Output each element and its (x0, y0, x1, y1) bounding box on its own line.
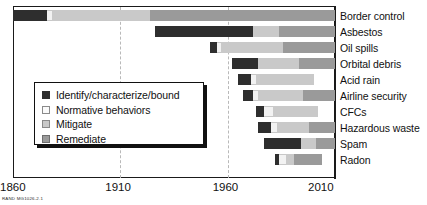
bar-segment-identify (258, 122, 271, 133)
legend-item: Identify/characterize/bound (42, 88, 203, 102)
bar-segment-identify (232, 58, 258, 69)
bar-segment-mitigate (277, 122, 309, 133)
category-label: Border control (340, 11, 405, 22)
legend-label: Remediate (56, 133, 106, 145)
bar-segment-identify (13, 10, 47, 21)
x-tick-label: 1910 (105, 181, 131, 193)
category-label: Oil spills (340, 43, 378, 54)
bar-segment-identify (243, 90, 254, 101)
bar-segment-remediate (303, 90, 335, 101)
x-tick-label: 1960 (213, 181, 239, 193)
legend-swatch-icon (42, 91, 50, 99)
bar-segment-normative (264, 106, 273, 117)
legend-label: Normative behaviors (56, 104, 150, 116)
bar-segment-mitigate (258, 90, 303, 101)
bar-segment-remediate (299, 58, 335, 69)
category-label: Radon (340, 155, 370, 166)
bar-segment-mitigate (253, 26, 279, 37)
bar-segment-remediate (283, 42, 335, 53)
legend-swatch-icon (42, 120, 50, 128)
legend-item: Remediate (42, 132, 203, 146)
bar-segment-mitigate (258, 58, 299, 69)
bar-segment-identify (256, 106, 265, 117)
legend-swatch-icon (42, 106, 50, 114)
bar-segment-mitigate (301, 138, 316, 149)
legend-item: Mitigate (42, 117, 203, 131)
bar-segment-remediate (279, 26, 335, 37)
bar-segment-mitigate (52, 10, 151, 21)
bar-segment-remediate (316, 138, 335, 149)
bar-segment-remediate (309, 122, 335, 133)
category-label: Spam (340, 139, 367, 150)
legend-label: Identify/characterize/bound (56, 89, 179, 101)
bar-segment-identify (264, 138, 300, 149)
category-label: Hazardous waste (340, 123, 420, 134)
category-label: Airline security (340, 91, 407, 102)
x-tick-label: 1860 (0, 181, 26, 193)
chart-figure: Border controlAsbestosOil spillsOrbital … (0, 0, 427, 205)
category-label: Acid rain (340, 75, 380, 86)
bar-segment-remediate (294, 154, 322, 165)
x-tick-label: 2010 (308, 181, 334, 193)
legend-label: Mitigate (56, 118, 92, 130)
bar-segment-identify (155, 26, 254, 37)
bar-segment-identify (238, 74, 251, 85)
category-label: Asbestos (340, 27, 382, 38)
bar-segment-mitigate (273, 106, 318, 117)
bar-segment-remediate (150, 10, 335, 21)
category-label: Orbital debris (340, 59, 401, 70)
legend-item: Normative behaviors (42, 103, 203, 117)
bar-segment-mitigate (256, 74, 314, 85)
source-credit: RAND MG1026-2.1 (2, 196, 43, 201)
bar-segment-mitigate (286, 154, 295, 165)
chart-legend: Identify/characterize/boundNormative beh… (34, 82, 204, 145)
legend-swatch-icon (42, 135, 50, 143)
bar-segment-mitigate (221, 42, 283, 53)
category-label: CFCs (340, 107, 366, 118)
